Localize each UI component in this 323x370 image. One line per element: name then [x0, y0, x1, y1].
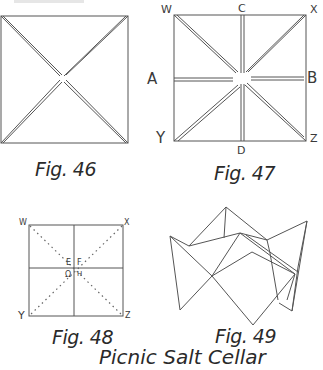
fig47-caption: Fig. 47	[214, 164, 275, 183]
fig46-caption: Fig. 46	[35, 160, 96, 179]
fig49-caption: Fig. 49	[215, 327, 276, 346]
fig49-diagram	[0, 0, 323, 370]
page-title: Picnic Salt Cellar	[99, 347, 266, 367]
